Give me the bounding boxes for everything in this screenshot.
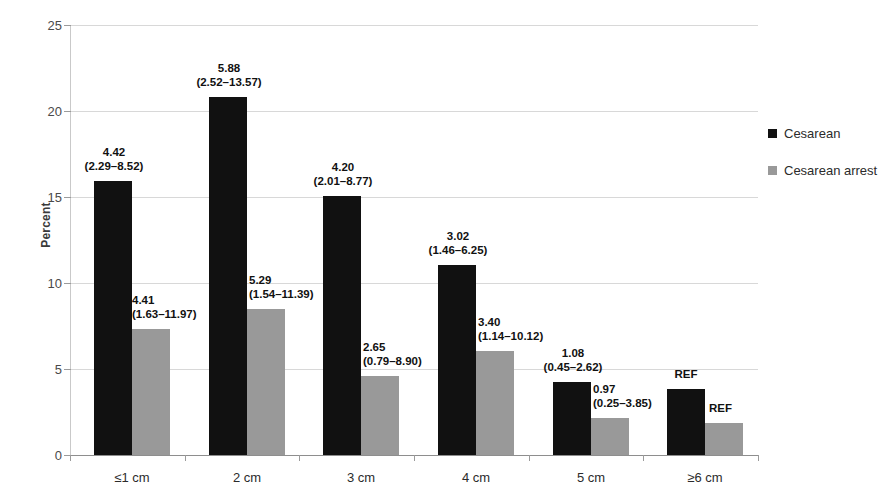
bar-cesarean-1[interactable] <box>209 97 247 455</box>
x-tick-mark-0 <box>70 455 71 461</box>
bar-label-cesarean-2: 4.20 (2.01–8.77) <box>282 161 404 188</box>
x-tick-mark-1 <box>185 455 186 461</box>
bar-label-cesarean-5: REF <box>655 368 717 382</box>
bar-cesarean-5[interactable] <box>667 389 705 455</box>
bar-label-cesarean-4: 1.08 (0.45–2.62) <box>512 347 634 374</box>
bar-label-cesarean-0: 4.42 (2.29–8.52) <box>53 146 175 173</box>
y-tick-label-25: 25 <box>28 18 62 33</box>
x-axis-label-4: 5 cm <box>577 470 605 485</box>
x-tick-mark-3 <box>414 455 415 461</box>
legend-item-cesarean-arrest[interactable]: Cesarean arrest <box>768 163 877 178</box>
bar-value-cesarean-3: 3.02 <box>397 230 519 244</box>
bar-label-cesarean-1: 5.88 (2.52–13.57) <box>168 62 290 89</box>
y-tick-label-15: 15 <box>28 190 62 205</box>
plot-area: 4.42 (2.29–8.52) 4.41 (1.63–11.97) 5.88 … <box>70 25 758 455</box>
bar-value-cesarean-4: 1.08 <box>512 347 634 361</box>
y-axis-ticks: 25 20 15 10 5 0 <box>10 0 62 486</box>
bar-cesarean-arrest-1[interactable] <box>247 309 285 455</box>
bar-ci-cesarean-2: (2.01–8.77) <box>282 175 404 189</box>
bar-group-4: 1.08 (0.45–2.62) 0.97 (0.25–3.85) <box>529 25 644 455</box>
bar-value-cesarean-0: 4.42 <box>53 146 175 160</box>
x-tick-mark-2 <box>299 455 300 461</box>
bar-label-cesarean-3: 3.02 (1.46–6.25) <box>397 230 519 257</box>
bar-label-cesarean-arrest-5: REF <box>709 402 771 416</box>
bar-cesarean-arrest-5[interactable] <box>705 423 743 455</box>
bar-ci-cesarean-0: (2.29–8.52) <box>53 160 175 174</box>
bar-group-1: 5.88 (2.52–13.57) 5.29 (1.54–11.39) <box>185 25 300 455</box>
legend-swatch-icon-cesarean-arrest <box>768 166 777 175</box>
y-tick-label-10: 10 <box>28 276 62 291</box>
bar-group-0: 4.42 (2.29–8.52) 4.41 (1.63–11.97) <box>70 25 185 455</box>
legend-item-cesarean[interactable]: Cesarean <box>768 126 877 141</box>
bar-cesarean-arrest-4[interactable] <box>591 418 629 455</box>
bar-cesarean-arrest-0[interactable] <box>132 329 170 455</box>
bar-cesarean-arrest-2[interactable] <box>361 376 399 455</box>
bar-chart: Percent 25 20 15 10 5 0 4.42 (2.29–8.5 <box>0 0 892 486</box>
x-axis-label-5: ≥6 cm <box>687 470 722 485</box>
bar-cesarean-0[interactable] <box>94 181 132 455</box>
y-tick-label-20: 20 <box>28 104 62 119</box>
bar-value-cesarean-2: 4.20 <box>282 161 404 175</box>
bar-cesarean-arrest-3[interactable] <box>476 351 514 455</box>
legend: Cesarean Cesarean arrest <box>768 126 877 200</box>
x-axis-label-1: 2 cm <box>233 470 261 485</box>
bar-value-cesarean-arrest-5: REF <box>709 402 771 416</box>
bar-cesarean-3[interactable] <box>438 265 476 455</box>
bar-group-3: 3.02 (1.46–6.25) 3.40 (1.14–10.12) <box>414 25 529 455</box>
legend-swatch-icon-cesarean <box>768 129 777 138</box>
bar-group-5: REF REF <box>643 25 758 455</box>
y-tick-label-5: 5 <box>28 362 62 377</box>
x-axis-label-2: 3 cm <box>347 470 375 485</box>
x-tick-mark-6 <box>758 455 759 461</box>
x-axis-label-3: 4 cm <box>462 470 490 485</box>
x-tick-mark-5 <box>643 455 644 461</box>
bar-ci-cesarean-1: (2.52–13.57) <box>168 76 290 90</box>
bar-cesarean-2[interactable] <box>323 196 361 455</box>
legend-label-cesarean-arrest: Cesarean arrest <box>784 163 877 178</box>
bar-value-cesarean-1: 5.88 <box>168 62 290 76</box>
x-tick-mark-4 <box>529 455 530 461</box>
x-axis-label-0: ≤1 cm <box>114 470 149 485</box>
bar-ci-cesarean-3: (1.46–6.25) <box>397 244 519 258</box>
bar-cesarean-4[interactable] <box>553 382 591 455</box>
bar-ci-cesarean-4: (0.45–2.62) <box>512 361 634 375</box>
y-tick-label-0: 0 <box>28 448 62 463</box>
bar-value-cesarean-5: REF <box>655 368 717 382</box>
legend-label-cesarean: Cesarean <box>784 126 840 141</box>
